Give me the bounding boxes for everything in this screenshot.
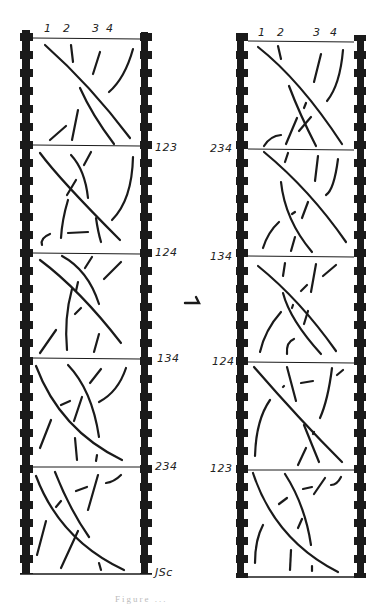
column-label: 2 [63,22,70,35]
frame-dividers [236,41,366,577]
strand-sketches [36,45,133,570]
signature-label: JSc [155,566,173,579]
transition-arrow-icon [183,290,203,314]
column-label: 4 [106,22,113,35]
column-label: 2 [277,26,284,39]
frame-dividers [20,38,152,574]
right-film-strip [236,33,366,578]
column-label: 1 [44,22,51,35]
column-label: 4 [330,26,337,39]
frame-label: 134 [157,352,180,365]
frame-label: 134 [210,250,233,263]
column-label: 3 [313,26,320,39]
frame-label: 234 [155,460,178,473]
frame-label: 123 [155,141,178,154]
figure-caption: Figure ... [115,594,168,604]
frame-label: 234 [210,142,233,155]
frame-label: 124 [155,246,178,259]
column-label: 1 [258,26,265,39]
frame-label: 124 [212,355,235,368]
left-film-strip [20,30,152,574]
column-label: 3 [92,22,99,35]
strand-sketches [253,46,346,572]
frame-label: 123 [210,462,233,475]
